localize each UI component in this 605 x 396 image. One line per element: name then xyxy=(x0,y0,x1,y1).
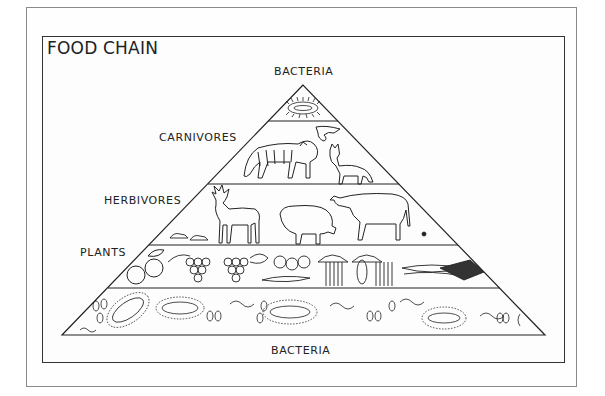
pig-icon xyxy=(280,206,336,245)
cabbage-icon xyxy=(402,260,484,280)
bacteria-colony-icon xyxy=(286,97,320,118)
bird-of-prey-icon xyxy=(316,126,340,141)
bacteria-base-icon xyxy=(80,286,520,335)
apple-icon xyxy=(127,250,164,284)
insect-icon xyxy=(422,232,426,236)
cow-icon xyxy=(330,194,410,241)
mice-icon xyxy=(170,234,208,241)
food-pyramid xyxy=(0,0,605,396)
vegetables-icon xyxy=(262,256,310,282)
wheat-icon xyxy=(318,255,392,286)
pyramid-outline xyxy=(62,85,545,335)
grapes-icon xyxy=(168,254,268,282)
deer-icon xyxy=(212,185,260,243)
tiger-icon xyxy=(244,141,318,178)
